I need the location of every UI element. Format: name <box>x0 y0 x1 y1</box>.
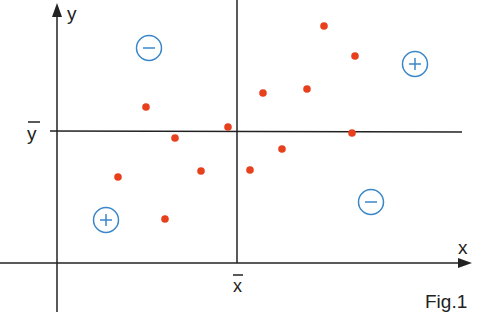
data-point <box>246 166 254 174</box>
y-axis-arrow-icon <box>52 3 62 17</box>
x-axis-label: x <box>458 237 468 258</box>
data-point <box>142 103 150 111</box>
data-point <box>348 129 356 137</box>
sign-plus-top-right <box>403 52 428 77</box>
x-mean-label: x <box>233 275 243 296</box>
data-point <box>278 145 286 153</box>
data-point <box>114 173 122 181</box>
y-axis-label: y <box>67 3 77 24</box>
data-point <box>224 123 232 131</box>
data-point <box>259 89 267 97</box>
sign-minus-top-left <box>137 36 162 61</box>
data-point <box>171 134 179 142</box>
sign-minus-bottom-right <box>359 190 384 215</box>
figure-caption: Fig.1 <box>425 291 467 312</box>
data-point <box>320 22 328 30</box>
svg-text:x: x <box>233 276 242 296</box>
x-axis-arrow-icon <box>458 258 472 268</box>
data-point <box>351 52 359 60</box>
y-mean-label: y <box>27 122 40 144</box>
svg-text:y: y <box>27 123 37 144</box>
y-mean-line <box>50 131 462 132</box>
data-point <box>161 215 169 223</box>
data-point <box>197 167 205 175</box>
data-point <box>303 85 311 93</box>
sign-plus-bottom-left <box>94 208 119 233</box>
scatter-diagram: y x y x Fig.1 <box>0 0 482 320</box>
